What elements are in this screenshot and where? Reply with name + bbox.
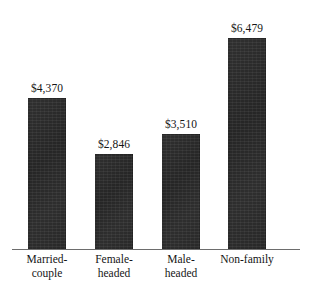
plot-area: $4,370 $2,846 $3,510 $6,479 bbox=[0, 0, 311, 250]
bar-group-married-couple: $4,370 bbox=[28, 98, 66, 250]
x-axis-label-non-family: Non-family bbox=[208, 252, 286, 266]
bar-chart-figure: $4,370 $2,846 $3,510 $6,479 Married- cou… bbox=[0, 0, 311, 293]
x-axis-category-labels: Married- couple Female- headed Male- hea… bbox=[0, 252, 311, 293]
bar-male-headed[interactable] bbox=[162, 134, 200, 250]
bar-group-non-family: $6,479 bbox=[228, 38, 266, 250]
x-axis-label-male-headed: Male- headed bbox=[144, 252, 218, 280]
bar-non-family[interactable] bbox=[228, 38, 266, 250]
x-axis-label-line: Non-family bbox=[208, 252, 286, 266]
x-axis-label-line: headed bbox=[144, 266, 218, 280]
x-axis-label-line: couple bbox=[10, 266, 84, 280]
bar-value-label: $6,479 bbox=[228, 22, 266, 35]
bar-value-label: $4,370 bbox=[28, 82, 66, 95]
bar-female-headed[interactable] bbox=[95, 154, 133, 250]
bar-value-label: $2,846 bbox=[95, 138, 133, 151]
bar-group-female-headed: $2,846 bbox=[95, 154, 133, 250]
bar-married-couple[interactable] bbox=[28, 98, 66, 250]
x-axis-label-married-couple: Married- couple bbox=[10, 252, 84, 280]
x-axis-line bbox=[12, 249, 300, 250]
x-axis-label-female-headed: Female- headed bbox=[77, 252, 151, 280]
x-axis-label-line: Female- bbox=[77, 252, 151, 266]
bar-value-label: $3,510 bbox=[162, 118, 200, 131]
x-axis-label-line: Married- bbox=[10, 252, 84, 266]
x-axis-label-line: headed bbox=[77, 266, 151, 280]
bar-group-male-headed: $3,510 bbox=[162, 134, 200, 250]
x-axis-label-line: Male- bbox=[144, 252, 218, 266]
